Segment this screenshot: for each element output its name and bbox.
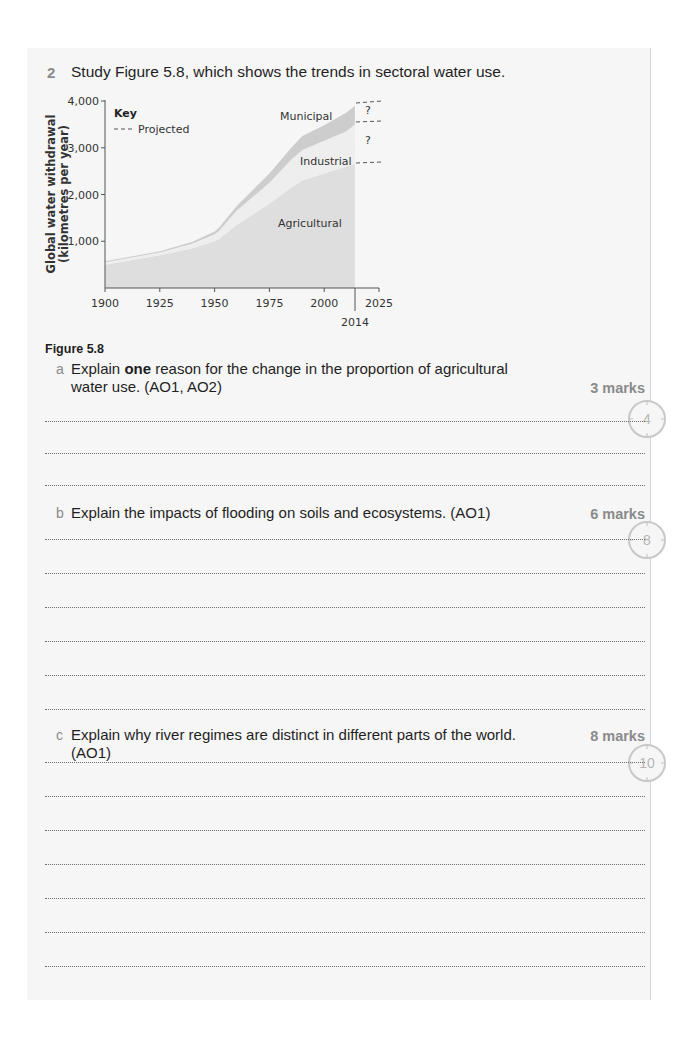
svg-text:4: 4: [643, 411, 651, 427]
y-ticks: 1,0002,0003,0004,000: [68, 95, 106, 248]
projection-total: [356, 101, 382, 103]
answer-line[interactable]: [45, 762, 645, 763]
figure-caption: Figure 5.8: [45, 342, 104, 356]
projection-unknown-industrial: ?: [365, 134, 371, 147]
timer-icon-part-a: 4: [627, 397, 667, 441]
projection-municipal-base: [356, 121, 382, 122]
part-c-letter: c: [56, 727, 63, 743]
answer-line[interactable]: [45, 453, 645, 454]
x-tick-label: 1975: [255, 297, 283, 310]
answer-line[interactable]: [45, 864, 645, 865]
y-tick-label: 4,000: [68, 95, 100, 108]
label-municipal: Municipal: [280, 110, 332, 123]
x-tick-label: 1925: [146, 297, 174, 310]
answer-line[interactable]: [45, 539, 645, 540]
svg-text:10: 10: [639, 755, 655, 771]
answer-line[interactable]: [45, 709, 645, 710]
x-tick-label: 1950: [201, 297, 229, 310]
part-b-letter: b: [56, 505, 64, 521]
svg-text:8: 8: [643, 532, 651, 548]
answer-line[interactable]: [45, 485, 645, 486]
marker-2014-label: 2014: [341, 316, 369, 329]
answer-line[interactable]: [45, 641, 645, 642]
y-tick-label: 1,000: [68, 235, 100, 248]
answer-line[interactable]: [45, 932, 645, 933]
answer-line[interactable]: [45, 830, 645, 831]
answer-line[interactable]: [45, 573, 645, 574]
label-industrial: Industrial: [300, 155, 352, 168]
part-a-letter: a: [56, 361, 64, 377]
answer-line[interactable]: [45, 421, 645, 422]
figure-5-8-chart: 1,0002,0003,0004,000 1900192519501975200…: [0, 0, 687, 340]
x-ticks: 190019251950197520002025: [91, 288, 393, 310]
part-b-text: Explain the impacts of flooding on soils…: [71, 504, 551, 522]
timer-icon-part-c: 10: [627, 741, 667, 785]
answer-line[interactable]: [45, 607, 645, 608]
part-a-marks: 3 marks: [590, 380, 645, 396]
svg-text:(kilometres per year): (kilometres per year): [57, 125, 71, 263]
y-axis-label: Global water withdrawal (kilometres per …: [44, 115, 71, 274]
answer-line[interactable]: [45, 966, 645, 967]
answer-line[interactable]: [45, 796, 645, 797]
answer-line[interactable]: [45, 675, 645, 676]
y-tick-label: 3,000: [68, 142, 100, 155]
legend-projected-label: Projected: [138, 123, 189, 136]
timer-icon-part-b: 8: [627, 518, 667, 562]
y-tick-label: 2,000: [68, 189, 100, 202]
svg-text:Global water withdrawal: Global water withdrawal: [44, 115, 58, 274]
x-tick-label: 2025: [365, 297, 393, 310]
x-tick-label: 2000: [310, 297, 338, 310]
projection-industrial-base: [356, 162, 382, 163]
x-tick-label: 1900: [91, 297, 119, 310]
legend-title: Key: [114, 107, 137, 120]
part-c-text: Explain why river regimes are distinct i…: [71, 726, 551, 762]
part-a-text: Explain one reason for the change in the…: [71, 360, 521, 396]
projection-unknown-municipal: ?: [365, 104, 371, 117]
answer-line[interactable]: [45, 898, 645, 899]
label-agricultural: Agricultural: [278, 217, 342, 230]
